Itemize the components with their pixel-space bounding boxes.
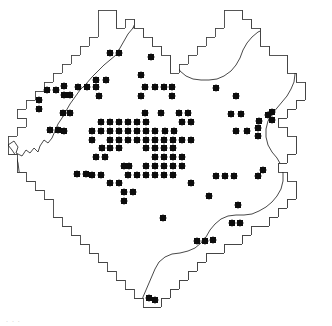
record-dot	[255, 133, 262, 140]
record-dot	[116, 119, 123, 126]
record-dot	[161, 163, 168, 170]
record-dot	[188, 119, 195, 126]
record-dot	[170, 172, 177, 179]
record-dot	[53, 87, 60, 94]
record-dot	[107, 50, 114, 57]
record-dot	[143, 119, 150, 126]
record-dot	[89, 137, 96, 144]
record-dot	[142, 84, 149, 91]
record-dot	[170, 163, 177, 170]
record-dot	[206, 193, 213, 200]
record-dot	[256, 118, 263, 125]
record-dot	[61, 92, 68, 99]
record-dot	[55, 127, 62, 134]
record-dot	[36, 97, 43, 104]
record-dot	[170, 145, 177, 152]
record-dot	[102, 154, 109, 161]
record-dot	[202, 238, 209, 245]
record-dot	[125, 172, 132, 179]
record-dot	[143, 163, 150, 170]
record-dot	[160, 215, 167, 222]
record-dot	[222, 173, 229, 180]
record-dot	[116, 50, 123, 57]
record-dot	[269, 109, 276, 116]
record-dot	[74, 171, 81, 178]
record-dot	[98, 172, 105, 179]
record-dot	[107, 128, 114, 135]
record-dot	[161, 137, 168, 144]
record-dot	[179, 163, 186, 170]
record-dot	[116, 137, 123, 144]
record-dot	[210, 237, 217, 244]
record-dot	[107, 180, 114, 187]
record-dot	[152, 84, 159, 91]
record-dot	[179, 137, 186, 144]
record-dot	[134, 119, 141, 126]
record-dot	[107, 119, 114, 126]
figure-caption: . . .	[6, 314, 126, 325]
record-dot	[161, 145, 168, 152]
record-dot	[158, 110, 165, 117]
record-dot	[170, 137, 177, 144]
record-dot	[255, 125, 262, 132]
record-dot	[228, 111, 235, 118]
record-dot	[146, 295, 153, 302]
record-dot	[125, 128, 132, 135]
record-dot	[162, 128, 169, 135]
record-dot	[47, 127, 54, 134]
record-dot	[213, 173, 220, 180]
record-dot	[179, 154, 186, 161]
record-dot	[235, 202, 242, 209]
record-dot	[138, 72, 145, 79]
record-dot	[152, 137, 159, 144]
record-dot	[260, 167, 267, 174]
record-dot	[152, 145, 159, 152]
record-dot	[61, 83, 68, 90]
record-dot	[96, 93, 103, 100]
record-dot	[93, 77, 100, 84]
record-dot	[126, 163, 133, 170]
map-canvas	[0, 0, 332, 326]
record-dot	[138, 93, 145, 100]
record-dot	[229, 220, 236, 227]
record-dot	[269, 117, 276, 124]
record-dot	[89, 172, 96, 179]
record-dot	[152, 297, 159, 304]
record-dot	[161, 154, 168, 161]
record-dot	[176, 110, 183, 117]
record-dot	[194, 238, 201, 245]
record-dot	[152, 172, 159, 179]
record-dot	[161, 172, 168, 179]
record-dot	[169, 93, 176, 100]
record-dot	[188, 180, 195, 187]
distribution-map-figure: . . .	[0, 0, 332, 326]
record-dot	[148, 54, 155, 61]
record-dot	[233, 93, 240, 100]
record-dot	[84, 84, 91, 91]
record-dot	[255, 173, 262, 180]
record-dot	[237, 220, 244, 227]
record-dot	[99, 145, 106, 152]
record-dot	[67, 110, 74, 117]
record-dot	[213, 85, 220, 92]
record-dot	[116, 145, 123, 152]
record-dot	[93, 154, 100, 161]
record-dot	[143, 172, 150, 179]
record-dot	[143, 128, 150, 135]
record-dot	[98, 128, 105, 135]
record-dot	[107, 137, 114, 144]
record-dot	[67, 92, 74, 99]
record-dot	[103, 77, 110, 84]
record-dot	[60, 110, 67, 117]
record-dot	[134, 172, 141, 179]
record-dot	[116, 180, 123, 187]
record-dot	[188, 137, 195, 144]
record-dot	[244, 128, 251, 135]
record-dot	[121, 189, 128, 196]
record-dot	[98, 119, 105, 126]
record-dot	[36, 106, 43, 113]
record-dot	[93, 84, 100, 91]
record-dot	[134, 137, 141, 144]
record-dot	[89, 128, 96, 135]
record-dot	[44, 87, 51, 94]
